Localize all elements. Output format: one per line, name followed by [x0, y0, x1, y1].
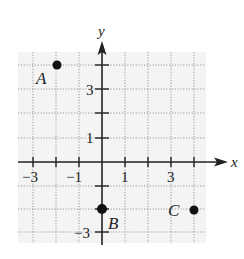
point-b: [97, 204, 107, 214]
coordinate-plane: x y −3 −1 1 3 3 1 −3 A B C: [0, 0, 244, 259]
x-axis-label: x: [230, 154, 238, 170]
point-c: [190, 206, 199, 215]
point-a-label: A: [35, 69, 47, 88]
x-tick-label: 3: [167, 169, 175, 185]
x-tick-label: −1: [66, 169, 82, 185]
x-tick-label: −3: [22, 169, 38, 185]
point-b-label: B: [108, 214, 119, 233]
y-tick-label: 3: [86, 82, 94, 98]
x-tick-label: 1: [121, 169, 129, 185]
y-tick-label: −3: [74, 225, 90, 241]
y-tick-label: 1: [86, 130, 94, 146]
point-a: [53, 61, 62, 70]
y-axis-label: y: [96, 23, 105, 39]
point-c-label: C: [168, 201, 180, 220]
